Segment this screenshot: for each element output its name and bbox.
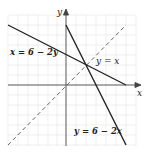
coordinate-plane: y x x = 6 − 2y y = x y = 6 − 2x <box>0 0 148 153</box>
y-axis-label: y <box>56 7 63 17</box>
x-axis-label: x <box>137 88 142 98</box>
label-x-equals-6-minus-2y: x = 6 − 2y <box>9 47 59 57</box>
label-y-equals-x: y = x <box>95 56 119 66</box>
label-y-equals-6-minus-2x: y = 6 − 2x <box>73 126 123 136</box>
x-axis-arrow-icon <box>135 83 141 88</box>
graph: y x x = 6 − 2y y = x y = 6 − 2x <box>0 0 148 153</box>
y-axis-arrow-icon <box>64 9 69 15</box>
